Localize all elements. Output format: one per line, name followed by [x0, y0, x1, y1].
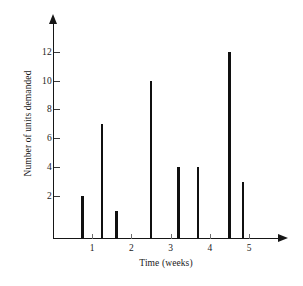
x-axis-tick — [92, 234, 93, 239]
x-axis-tick-label: 4 — [200, 243, 220, 254]
y-axis-tick — [54, 81, 60, 82]
x-axis-tick — [249, 234, 250, 239]
figure: 24681012 12345 Number of units demanded … — [0, 0, 303, 286]
x-axis-tick-label: 5 — [239, 243, 259, 254]
bar — [242, 182, 244, 238]
x-axis-tick-label: 3 — [161, 243, 181, 254]
bar — [81, 196, 83, 238]
x-axis-tick — [171, 234, 172, 239]
bar — [228, 52, 230, 238]
y-axis-line — [53, 22, 54, 238]
bar — [177, 167, 179, 238]
bar — [115, 211, 117, 238]
bar — [101, 124, 103, 238]
x-axis-tick-label: 2 — [121, 243, 141, 254]
y-axis-tick — [54, 138, 60, 139]
y-axis-tick — [54, 109, 60, 110]
x-axis-title: Time (weeks) — [53, 258, 279, 269]
bar — [150, 81, 152, 239]
x-axis-tick — [210, 234, 211, 239]
y-axis-arrow-icon — [49, 14, 57, 24]
x-axis-arrow-icon — [278, 234, 288, 242]
y-axis-tick — [54, 52, 60, 53]
x-axis-tick — [131, 234, 132, 239]
x-axis-line — [53, 238, 279, 239]
y-axis-tick — [54, 196, 60, 197]
y-axis-tick — [54, 167, 60, 168]
y-axis-title: Number of units demanded — [23, 39, 34, 209]
plot-area: 24681012 12345 Number of units demanded … — [0, 0, 303, 286]
bar — [197, 167, 199, 238]
x-axis-tick-label: 1 — [82, 243, 102, 254]
